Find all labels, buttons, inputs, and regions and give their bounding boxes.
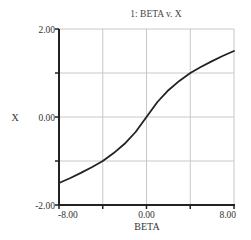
x-tick-label: 0.00 [138, 210, 155, 220]
y-tick-label: -2.00 [35, 201, 55, 211]
x-tick-label: -8.00 [58, 210, 78, 220]
chart-title: 1: BETA v. X [130, 9, 182, 19]
y-tick-label: 0.00 [38, 113, 55, 123]
y-tick-label: 2.00 [38, 25, 55, 35]
x-axis-ticks: -8.000.008.00 [58, 205, 236, 220]
y-axis-title: X [11, 112, 19, 123]
x-axis-title: BETA [134, 221, 160, 232]
x-tick-label: 8.00 [219, 210, 236, 220]
y-axis-ticks: -2.000.002.00 [35, 25, 59, 211]
chart: 1: BETA v. X -8.000.008.00 -2.000.002.00… [0, 0, 251, 240]
